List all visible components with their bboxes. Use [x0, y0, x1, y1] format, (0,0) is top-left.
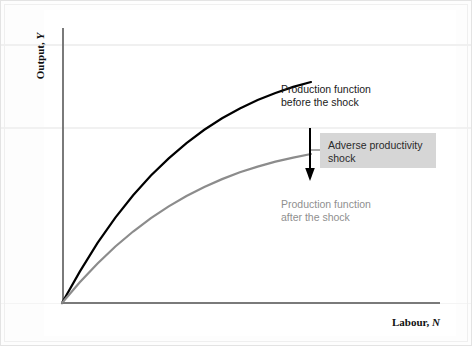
y-axis-label-symbol: Y	[34, 33, 46, 40]
annotation-after-shock: Production function after the shock	[281, 198, 371, 223]
x-axis-label-text: Labour,	[392, 316, 432, 328]
adverse-shock-callout-box: Adverse productivity shock	[320, 133, 436, 168]
plot-canvas	[44, 10, 456, 336]
x-axis-label: Labour, N	[392, 316, 440, 328]
production-function-figure: Output, Y Labour, N Production function …	[0, 0, 472, 346]
adverse-shock-callout-text: Adverse productivity shock	[328, 139, 423, 164]
x-axis-line	[62, 302, 440, 304]
x-axis-label-symbol: N	[432, 316, 440, 328]
y-axis-label: Output, Y	[34, 33, 46, 79]
y-axis-label-text: Output,	[34, 39, 46, 79]
annotation-before-shock: Production function before the shock	[281, 83, 371, 108]
y-axis-line	[62, 28, 64, 304]
